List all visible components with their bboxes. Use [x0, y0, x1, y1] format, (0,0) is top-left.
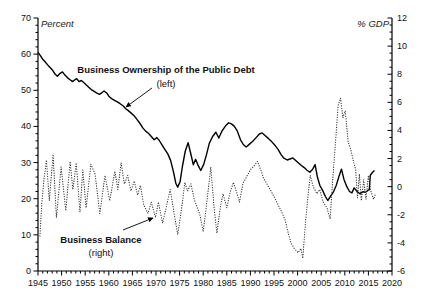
- x-tick-label: 2020: [382, 278, 402, 288]
- x-tick-label: 1945: [28, 278, 48, 288]
- left-tick-label: 70: [21, 13, 31, 23]
- left-tick-label: 10: [21, 230, 31, 240]
- right-tick-label: 4: [397, 125, 402, 135]
- left-tick-label: 30: [21, 158, 31, 168]
- ownership-series-label: Business Ownership of the Public Debt: [77, 64, 255, 75]
- right-tick-label: 12: [397, 13, 407, 23]
- x-tick-label: 1970: [146, 278, 166, 288]
- right-tick-label: 0: [397, 182, 402, 192]
- x-tick-label: 1960: [99, 278, 119, 288]
- x-tick-label: 2005: [311, 278, 331, 288]
- right-tick-label: 2: [397, 154, 402, 164]
- dual-axis-line-chart: 010203040506070-6-4-20246810121945195019…: [0, 0, 430, 304]
- x-tick-label: 2000: [288, 278, 308, 288]
- left-tick-label: 40: [21, 121, 31, 131]
- right-tick-label: -6: [397, 266, 405, 276]
- balance-series-label: Business Balance: [60, 234, 141, 245]
- right-tick-label: 8: [397, 69, 402, 79]
- right-tick-label: -4: [397, 238, 405, 248]
- plot-area: 010203040506070-6-4-20246810121945195019…: [21, 13, 407, 288]
- balance-series-label-arrow: [123, 218, 153, 230]
- x-tick-label: 1975: [170, 278, 190, 288]
- balance-series-label: (right): [89, 247, 114, 258]
- x-tick-label: 1950: [52, 278, 72, 288]
- right-tick-label: -2: [397, 210, 405, 220]
- right-axis-unit-label: % GDP: [357, 18, 389, 29]
- x-tick-label: 2010: [335, 278, 355, 288]
- left-tick-label: 50: [21, 85, 31, 95]
- left-tick-label: 60: [21, 49, 31, 59]
- chart-figure: 010203040506070-6-4-20246810121945195019…: [0, 0, 430, 304]
- x-tick-label: 1985: [217, 278, 237, 288]
- ownership-series-label-arrow: [126, 88, 152, 107]
- x-tick-label: 2015: [358, 278, 378, 288]
- right-tick-label: 10: [397, 41, 407, 51]
- x-tick-label: 1990: [240, 278, 260, 288]
- left-tick-label: 0: [26, 266, 31, 276]
- right-tick-label: 6: [397, 97, 402, 107]
- x-tick-label: 1995: [264, 278, 284, 288]
- left-tick-label: 20: [21, 194, 31, 204]
- ownership-series-label: (left): [157, 78, 176, 89]
- left-axis-unit-label: Percent: [41, 18, 74, 29]
- x-tick-label: 1955: [75, 278, 95, 288]
- x-tick-label: 1980: [193, 278, 213, 288]
- x-tick-label: 1965: [122, 278, 142, 288]
